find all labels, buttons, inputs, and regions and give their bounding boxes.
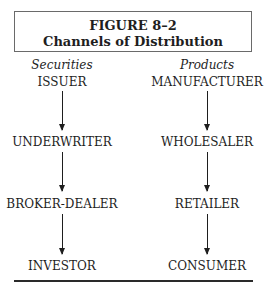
node-underwriter: UNDERWRITER: [0, 135, 127, 149]
node-manufacturer: MANUFACTURER: [142, 75, 265, 89]
figure-label: FIGURE 8–2: [15, 18, 251, 33]
figure-title-box: FIGURE 8–2 Channels of Distribution: [14, 11, 252, 52]
column-heading-products: Products: [147, 58, 265, 72]
node-wholesaler: WHOLESALER: [142, 135, 265, 149]
node-investor: INVESTOR: [0, 259, 127, 273]
node-broker-dealer: BROKER-DEALER: [0, 197, 127, 211]
arrow-down-icon: [62, 91, 63, 130]
arrow-down-icon: [62, 152, 63, 191]
column-heading-securities: Securities: [2, 58, 122, 72]
node-issuer: ISSUER: [0, 75, 127, 89]
node-retailer: RETAILER: [142, 197, 265, 211]
arrow-down-icon: [207, 152, 208, 191]
arrow-down-icon: [207, 91, 208, 130]
arrow-down-icon: [62, 214, 63, 254]
bottom-divider: [14, 280, 253, 282]
figure-title: Channels of Distribution: [15, 34, 251, 49]
node-consumer: CONSUMER: [142, 259, 265, 273]
arrow-down-icon: [207, 214, 208, 254]
